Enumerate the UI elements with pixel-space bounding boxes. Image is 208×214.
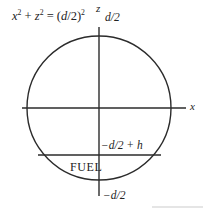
x-axis-label: x <box>190 101 195 112</box>
equation-half: /2) <box>67 9 81 23</box>
diagram-canvas <box>0 0 208 214</box>
equation-plus: + <box>21 9 34 23</box>
fuel-region-label: FUEL <box>70 161 102 173</box>
equation-equals: = ( <box>44 9 61 23</box>
fuel-level-label: −d/2 + h <box>101 140 143 152</box>
top-tick-label: d/2 <box>105 12 120 24</box>
equation-exponent-r: 2 <box>81 8 85 17</box>
fuel-tank-diagram: x2 + z2 = (d/2)2 z d/2 x −d/2 + h FUEL −… <box>0 0 208 214</box>
circle-equation-label: x2 + z2 = (d/2)2 <box>12 9 85 23</box>
z-axis-label: z <box>96 3 100 14</box>
bottom-tick-label: −d/2 <box>103 190 125 202</box>
